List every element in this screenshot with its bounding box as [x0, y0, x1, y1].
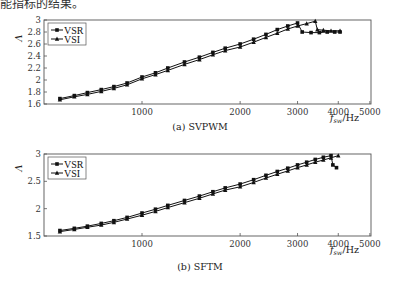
series-vsr	[58, 154, 338, 232]
y-tick-label: 3	[36, 15, 41, 25]
y-tick-label: 2.2	[27, 63, 41, 73]
y-axis-label: Λ	[13, 164, 24, 172]
x-axis-label: fsw/Hz	[329, 112, 359, 125]
x-tick-label: 2000	[229, 239, 251, 249]
triangle-marker-icon	[313, 19, 317, 23]
legend: VSRVSI	[48, 157, 86, 179]
figure-caption: (a) SVPWM	[172, 121, 228, 132]
y-tick-label: 2.6	[27, 39, 41, 49]
x-tick-label: 1000	[131, 239, 153, 249]
y-axis-label: Λ	[13, 34, 24, 42]
x-tick-label: 3000	[287, 107, 309, 117]
x-tick-label: 1000	[131, 107, 153, 117]
square-marker-icon	[335, 166, 339, 170]
x-tick-label: 2000	[229, 107, 251, 117]
legend: VSRVSI	[48, 23, 86, 45]
figure: 1.61.822.22.42.62.8310002000300040005000…	[0, 0, 397, 285]
y-tick-label: 2	[36, 75, 41, 85]
y-tick-label: 3	[36, 149, 41, 159]
plot-frame	[44, 154, 371, 236]
y-tick-label: 1.8	[27, 87, 41, 97]
x-tick-label: 5000	[359, 239, 381, 249]
y-tick-label: 2.8	[27, 27, 41, 37]
chart-b: 1.522.5310002000300040005000Λfsw/Hz(b) S…	[13, 149, 381, 272]
figure-caption: (b) SFTM	[177, 261, 223, 272]
square-marker-icon	[55, 28, 59, 32]
square-marker-icon	[300, 30, 304, 34]
y-tick-label: 2.5	[27, 176, 41, 186]
y-tick-label: 2	[36, 204, 41, 214]
square-marker-icon	[309, 31, 313, 35]
x-tick-label: 5000	[359, 107, 381, 117]
x-axis-label: fsw/Hz	[329, 244, 359, 257]
square-marker-icon	[331, 163, 335, 167]
legend-label: VSI	[64, 168, 80, 179]
square-marker-icon	[55, 162, 59, 166]
legend-label: VSI	[64, 34, 80, 45]
y-tick-label: 1.5	[27, 231, 41, 241]
chart-a: 1.61.822.22.42.62.8310002000300040005000…	[13, 15, 381, 132]
x-tick-label: 3000	[287, 239, 309, 249]
y-tick-label: 1.6	[27, 99, 41, 109]
y-tick-label: 2.4	[27, 51, 41, 61]
